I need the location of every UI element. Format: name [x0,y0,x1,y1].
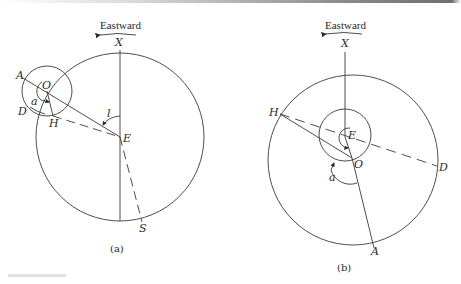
point-e-b: E [347,129,356,142]
point-e-a: E [122,132,131,145]
eastward-label-b: Eastward [325,19,366,31]
eastward-arrow-icon-b [326,33,362,35]
point-s-a: S [139,222,147,235]
point-o-b: O [354,158,363,171]
point-x-b: X [340,37,350,50]
d-tick-a [30,107,45,114]
eastward-label-a: Eastward [100,19,141,31]
epicycle-diagram: Eastward X A O a D H l E S (a) Ea [0,0,461,284]
point-x-a: X [114,36,124,49]
angle-l-label-a: l [107,107,111,120]
point-h-b: H [268,106,279,119]
panel-b: Eastward X H E O a D A (b) [268,19,448,273]
point-h-a: H [48,117,59,130]
caption-b: (b) [337,262,351,273]
panel-a: Eastward X A O a D H l E S (a) [15,19,204,254]
point-d-a: D [17,105,27,118]
point-a-a: A [15,69,24,82]
point-o-a: O [42,79,51,92]
point-d-b: D [438,161,448,174]
angle-a-label-a: a [31,95,38,108]
line-es-dashed-a [120,137,142,222]
line-oa-b [352,158,374,248]
angle-a-label-b: a [329,171,336,184]
caption-a: (a) [110,243,124,254]
angle-l-arc-a [103,116,120,125]
eastward-arrow-icon-a [100,34,136,36]
point-a-b: A [370,245,379,258]
line-ho-b [280,114,352,158]
